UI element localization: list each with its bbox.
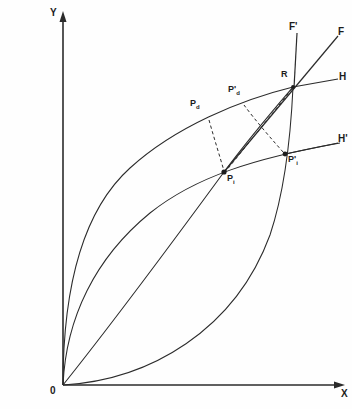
figure-canvas: Y X 0 F' F H H' R Pd P'd Pi P'i bbox=[0, 0, 352, 409]
point-marker-r bbox=[291, 85, 295, 89]
point-label-pi-subscript: i bbox=[233, 179, 235, 185]
origin-label: 0 bbox=[50, 386, 56, 396]
ray-label-h: H bbox=[339, 72, 346, 82]
point-label-pd-subscript: d bbox=[196, 104, 200, 110]
dashed-r-to-pi bbox=[226, 89, 292, 171]
point-label-r: R bbox=[281, 70, 288, 79]
dashed-pd-to-pi bbox=[209, 120, 224, 171]
dashed-pdprime-to-piprime bbox=[244, 105, 284, 153]
point-label-pd-prime: P'd bbox=[228, 85, 240, 96]
ray-f-prime bbox=[294, 33, 297, 88]
point-marker-pi bbox=[221, 169, 226, 174]
x-axis-label: X bbox=[341, 389, 348, 399]
ray-h-prime bbox=[285, 143, 338, 154]
dashed-connectors-group bbox=[209, 89, 292, 171]
point-marker-pi-prime bbox=[283, 152, 288, 157]
point-label-pi-prime-subscript: i bbox=[296, 160, 298, 166]
point-label-pd-prime-subscript: d bbox=[236, 90, 240, 96]
y-axis-label: Y bbox=[50, 8, 57, 18]
y-axis-arrowhead bbox=[60, 11, 67, 22]
ray-f bbox=[224, 36, 338, 172]
ray-label-f: F bbox=[338, 27, 344, 37]
ray-label-h-prime: H' bbox=[338, 134, 348, 144]
ray-h bbox=[293, 79, 338, 87]
ray-label-f-prime: F' bbox=[289, 22, 298, 32]
diagram-svg bbox=[0, 0, 352, 409]
curves-group bbox=[63, 87, 340, 385]
point-label-pi: Pi bbox=[227, 174, 235, 185]
point-label-pd: Pd bbox=[190, 99, 200, 110]
curve-middle bbox=[63, 143, 340, 385]
point-label-pi-prime: P'i bbox=[288, 155, 298, 166]
